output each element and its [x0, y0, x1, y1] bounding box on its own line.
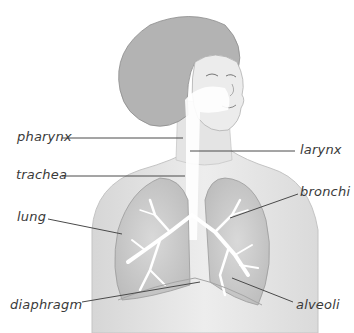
label-larynx: larynx: [300, 142, 342, 157]
label-bronchi: bronchi: [300, 184, 350, 199]
label-lung: lung: [17, 209, 46, 224]
label-trachea: trachea: [16, 167, 67, 182]
label-pharynx: pharynx: [17, 129, 72, 144]
label-diaphragm: diaphragm: [10, 297, 82, 312]
label-alveoli: alveoli: [296, 297, 340, 312]
